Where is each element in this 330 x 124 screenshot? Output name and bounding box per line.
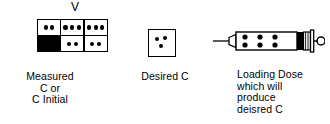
drug-dot: [97, 42, 101, 46]
volume-grid-cell: [85, 20, 107, 35]
cell-dot-group: [61, 36, 83, 51]
drug-dot: [74, 42, 78, 46]
drug-dot: [163, 36, 167, 40]
volume-grid-cell: [61, 36, 83, 51]
drug-dot: [70, 25, 74, 29]
desired-concentration-box: [148, 29, 176, 57]
drug-dot: [272, 34, 277, 39]
syringe-illustration: [213, 28, 325, 54]
desired-dot-group: [149, 30, 175, 56]
drug-dot: [94, 25, 98, 29]
drug-dot: [257, 42, 262, 47]
drug-dot: [87, 25, 91, 29]
diagram-canvas: V Measured C or C Initial Desired C: [0, 0, 330, 124]
drug-dot: [67, 42, 71, 46]
cell-dot-group: [38, 20, 60, 35]
volume-grid: [37, 19, 108, 52]
drug-dot: [50, 25, 54, 29]
cell-dot-group: [61, 20, 83, 35]
drug-dot: [90, 42, 94, 46]
drug-dot: [63, 25, 67, 29]
volume-marker-label: V: [60, 1, 90, 14]
volume-grid-cell: [85, 36, 107, 51]
volume-grid-caption: Measured C or C Initial: [0, 71, 100, 106]
drug-dot: [44, 25, 48, 29]
drug-dot: [257, 34, 262, 39]
drug-dot: [159, 44, 163, 48]
desired-concentration-caption: Desired C: [127, 71, 203, 83]
volume-grid-cell: [38, 20, 60, 35]
syringe-icon: [213, 28, 325, 54]
volume-grid-cell: [61, 20, 83, 35]
drug-dot: [242, 42, 247, 47]
cell-dot-group: [85, 20, 107, 35]
drug-dot: [272, 42, 277, 47]
drug-dot: [77, 25, 81, 29]
drug-dot: [100, 25, 104, 29]
drug-dot: [155, 37, 159, 41]
volume-grid-cell: [38, 36, 60, 51]
cell-dot-group: [85, 36, 107, 51]
drug-dot: [242, 34, 247, 39]
syringe-caption: Loading Dose which will produce deisred …: [237, 69, 329, 115]
